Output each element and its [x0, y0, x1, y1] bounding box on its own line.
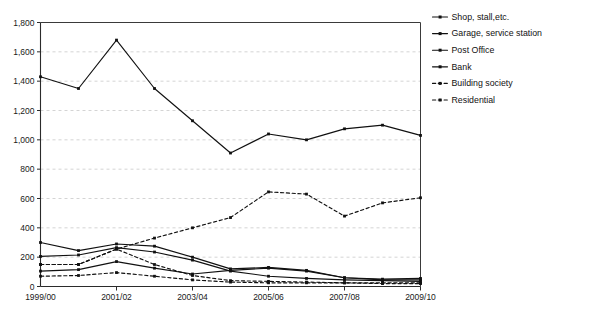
data-point-marker: [305, 138, 308, 141]
legend-label-shop-stall-etc: Shop, stall,etc.: [452, 12, 510, 22]
y-tick-label: 200: [20, 252, 34, 262]
data-point-marker: [267, 133, 270, 136]
data-point-marker: [77, 249, 80, 252]
data-point-marker: [305, 277, 308, 280]
data-point-marker: [343, 276, 346, 279]
data-point-marker: [305, 193, 308, 196]
data-point-marker: [343, 281, 346, 284]
legend-label-building-society: Building society: [452, 78, 514, 88]
data-point-marker: [381, 202, 384, 205]
y-tick-label: 1,200: [13, 106, 35, 116]
data-point-marker: [381, 279, 384, 282]
data-point-marker: [115, 243, 118, 246]
data-point-marker: [77, 268, 80, 271]
data-point-marker: [343, 127, 346, 130]
data-point-marker: [153, 237, 156, 240]
data-point-marker: [77, 254, 80, 257]
data-point-marker: [191, 119, 194, 122]
data-point-marker: [305, 270, 308, 273]
data-point-marker: [191, 226, 194, 229]
x-tick-label: 2009/10: [405, 292, 436, 302]
data-point-marker: [419, 196, 422, 199]
legend-marker-icon: [439, 16, 442, 19]
data-point-marker: [229, 269, 232, 272]
data-point-marker: [39, 241, 42, 244]
y-tick-label: 1,600: [13, 47, 35, 57]
data-point-marker: [381, 124, 384, 127]
data-point-marker: [115, 271, 118, 274]
data-point-marker: [419, 279, 422, 282]
data-point-marker: [419, 281, 422, 284]
data-point-marker: [39, 75, 42, 78]
data-point-marker: [39, 270, 42, 273]
data-point-marker: [267, 267, 270, 270]
data-point-marker: [153, 87, 156, 90]
legend-marker-icon: [439, 32, 442, 35]
data-point-marker: [115, 39, 118, 42]
y-tick-label: 1,800: [13, 18, 35, 28]
legend-label-post-office: Post Office: [452, 45, 495, 55]
data-point-marker: [229, 152, 232, 155]
line-chart: 02004006008001,0001,2001,4001,6001,800 1…: [0, 0, 593, 317]
y-tick-label: 600: [20, 194, 34, 204]
data-point-marker: [191, 274, 194, 277]
y-tick-label: 1,000: [13, 135, 35, 145]
data-point-marker: [229, 216, 232, 219]
data-point-marker: [153, 263, 156, 266]
data-point-marker: [191, 256, 194, 259]
legend-marker-icon: [439, 99, 442, 102]
data-point-marker: [115, 248, 118, 251]
data-point-marker: [229, 281, 232, 284]
data-point-marker: [77, 274, 80, 277]
data-point-marker: [153, 245, 156, 248]
data-point-marker: [77, 263, 80, 266]
y-tick-label: 0: [30, 282, 35, 292]
data-point-marker: [39, 263, 42, 266]
data-point-marker: [153, 275, 156, 278]
x-tick-label: 2007/08: [329, 292, 360, 302]
data-point-marker: [39, 275, 42, 278]
legend-label-residential: Residential: [452, 95, 496, 105]
data-point-marker: [419, 134, 422, 137]
data-point-marker: [381, 281, 384, 284]
x-tick-label: 1999/00: [25, 292, 56, 302]
x-tick-label: 2005/06: [253, 292, 284, 302]
chart-canvas: 02004006008001,0001,2001,4001,6001,800 1…: [0, 0, 593, 317]
data-point-marker: [115, 260, 118, 263]
y-tick-label: 1,400: [13, 76, 35, 86]
legend-marker-icon: [439, 49, 442, 52]
data-point-marker: [39, 255, 42, 258]
data-point-marker: [267, 275, 270, 278]
data-point-marker: [267, 191, 270, 194]
x-tick-label: 2003/04: [177, 292, 208, 302]
data-point-marker: [153, 267, 156, 270]
x-tick-label: 2001/02: [101, 292, 132, 302]
legend-label-garage-service-station: Garage, service station: [452, 28, 543, 38]
y-tick-label: 400: [20, 223, 34, 233]
data-point-marker: [191, 279, 194, 282]
legend-label-bank: Bank: [452, 62, 473, 72]
data-point-marker: [267, 281, 270, 284]
y-tick-label: 800: [20, 164, 34, 174]
data-point-marker: [305, 281, 308, 284]
data-point-marker: [191, 259, 194, 262]
legend-marker-icon: [439, 82, 442, 85]
data-point-marker: [343, 215, 346, 218]
data-point-marker: [77, 87, 80, 90]
legend-marker-icon: [439, 65, 442, 68]
data-point-marker: [153, 251, 156, 254]
